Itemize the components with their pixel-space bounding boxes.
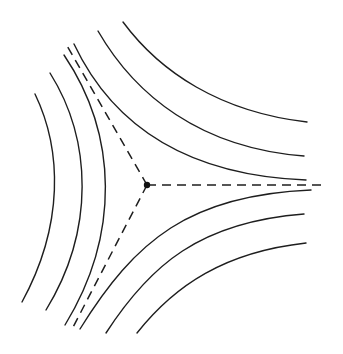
level-curve-left-inner — [64, 55, 105, 325]
separatrices — [66, 44, 322, 331]
level-curve-upper-right-middle — [98, 31, 304, 156]
level-curve-left-middle — [46, 73, 82, 310]
level-curve-upper-right-outer — [123, 22, 307, 122]
level-curve-upper-right-inner — [74, 44, 306, 180]
level-curve-lower-right-outer — [137, 243, 306, 333]
saddle-contour-diagram — [0, 0, 343, 354]
level-curve-lower-right-inner — [80, 190, 311, 329]
separatrix-lower-left — [71, 185, 147, 331]
separatrix-upper-left — [66, 44, 147, 185]
level-curves — [22, 22, 311, 333]
saddle-point — [144, 182, 150, 188]
level-curve-left-outer — [22, 94, 55, 302]
